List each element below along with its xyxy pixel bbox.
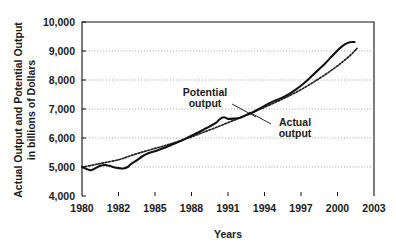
horizontal-gridlines bbox=[83, 51, 373, 167]
x-axis-ticks: 198019821985198819911994199720002003 bbox=[70, 192, 386, 214]
output-gap-line-chart: Actual Output and Potential Output in bi… bbox=[0, 0, 396, 248]
chart-figure: Actual Output and Potential Output in bi… bbox=[0, 0, 396, 248]
y-tick-label-6000: 6,000 bbox=[49, 132, 75, 144]
y-tick-label-10000: 10,000 bbox=[43, 16, 75, 28]
actual-output-annotation: Actual output bbox=[249, 112, 312, 139]
x-tick-label-2000: 2000 bbox=[326, 202, 350, 214]
y-axis-title-line-1: Actual Output and Potential Output bbox=[12, 22, 24, 198]
x-tick-label-1997: 1997 bbox=[289, 202, 313, 214]
x-tick-label-1985: 1985 bbox=[143, 202, 167, 214]
y-axis-ticks: 4,0005,0006,0007,0008,0009,00010,000 bbox=[43, 16, 86, 202]
x-tick-label-1980: 1980 bbox=[70, 202, 94, 214]
y-tick-label-5000: 5,000 bbox=[49, 161, 75, 173]
potential-output-annotation: Potential output bbox=[183, 86, 256, 117]
x-tick-label-2003: 2003 bbox=[362, 202, 386, 214]
x-tick-label-1991: 1991 bbox=[216, 202, 240, 214]
y-axis-title-line-2: in billions of Dollars bbox=[25, 60, 37, 161]
y-tick-label-4000: 4,000 bbox=[49, 190, 75, 202]
x-tick-label-1982: 1982 bbox=[107, 202, 131, 214]
x-axis-title: Years bbox=[214, 228, 242, 240]
y-tick-label-9000: 9,000 bbox=[49, 45, 75, 57]
y-tick-label-7000: 7,000 bbox=[49, 103, 75, 115]
actual-output-label-line-2: output bbox=[279, 127, 312, 139]
x-tick-label-1994: 1994 bbox=[253, 202, 277, 214]
y-axis-title-group: Actual Output and Potential Output in bi… bbox=[12, 22, 37, 198]
actual-output-leader-line bbox=[249, 112, 271, 124]
x-tick-label-1988: 1988 bbox=[180, 202, 204, 214]
y-tick-label-8000: 8,000 bbox=[49, 74, 75, 86]
potential-output-label-line-2: output bbox=[189, 97, 222, 109]
